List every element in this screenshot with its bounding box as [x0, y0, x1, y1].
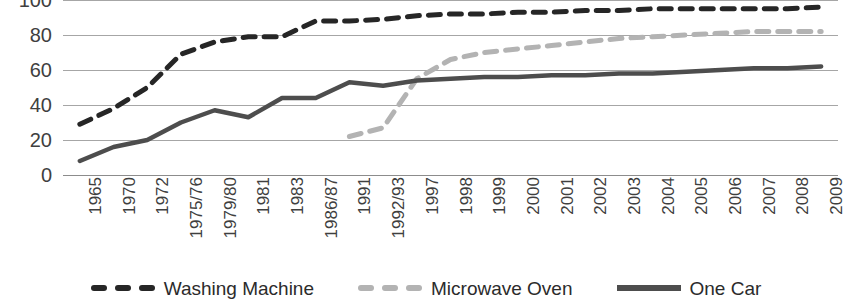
x-axis-tick-label: 1991	[356, 177, 373, 215]
x-axis-tick-text: 1981	[255, 177, 272, 215]
chart-legend: Washing MachineMicrowave OvenOne Car	[0, 268, 852, 308]
x-axis-tick-label: 2009	[828, 177, 845, 215]
x-axis-tick-label: 2003	[626, 177, 643, 215]
x-axis-tick-text: 1998	[458, 177, 475, 215]
dashed-gray-swatch	[358, 285, 422, 291]
x-axis-tick-text: 1979/80	[222, 177, 239, 238]
x-axis: 1965197019721975/761979/80198119831986/8…	[63, 177, 838, 268]
x-axis-tick-label: 1992/93	[390, 177, 407, 238]
x-axis-tick-text: 1975/76	[188, 177, 205, 238]
legend-item[interactable]: One Car	[617, 279, 762, 298]
x-axis-tick-text: 2004	[660, 177, 677, 215]
x-axis-tick-label: 2008	[794, 177, 811, 215]
x-axis-tick-label: 2005	[693, 177, 710, 215]
series-layer	[63, 0, 838, 175]
x-axis-tick-label: 1981	[255, 177, 272, 215]
y-axis-tick-label: 20	[30, 130, 52, 150]
y-axis-tick-label: 0	[41, 165, 52, 185]
x-axis-tick-label: 1979/80	[222, 177, 239, 238]
plot-area	[63, 0, 838, 175]
x-axis-tick-label: 1986/87	[323, 177, 340, 238]
x-axis-tick-label: 1999	[491, 177, 508, 215]
x-axis-tick-text: 1991	[356, 177, 373, 215]
x-axis-tick-label: 1972	[154, 177, 171, 215]
series-line	[349, 32, 821, 137]
y-axis-tick-label: 80	[30, 25, 52, 45]
x-axis-tick-label: 1983	[289, 177, 306, 215]
x-axis-tick-text: 2008	[794, 177, 811, 215]
x-axis-line	[63, 175, 838, 176]
plot-wrapper: 100806040200 1965197019721975/761979/801…	[0, 0, 852, 268]
legend-item[interactable]: Washing Machine	[91, 279, 314, 298]
dashed-dark-swatch	[91, 285, 155, 291]
x-axis-tick-text: 2002	[592, 177, 609, 215]
x-axis-tick-label: 2004	[660, 177, 677, 215]
x-axis-tick-text: 1999	[491, 177, 508, 215]
legend-item[interactable]: Microwave Oven	[358, 279, 573, 298]
y-axis-tick-label: 100	[19, 0, 52, 10]
y-axis-tick-label: 60	[30, 60, 52, 80]
x-axis-tick-text: 2005	[693, 177, 710, 215]
x-axis-tick-text: 2003	[626, 177, 643, 215]
line-chart: 100806040200 1965197019721975/761979/801…	[0, 0, 852, 308]
x-axis-tick-label: 2001	[559, 177, 576, 215]
legend-item-label: One Car	[690, 279, 762, 298]
x-axis-tick-text: 2007	[761, 177, 778, 215]
series-line	[80, 67, 821, 162]
x-axis-tick-text: 2000	[525, 177, 542, 215]
x-axis-tick-text: 2001	[559, 177, 576, 215]
x-axis-tick-label: 2006	[727, 177, 744, 215]
x-axis-tick-text: 1970	[121, 177, 138, 215]
y-axis: 100806040200	[0, 0, 58, 268]
x-axis-tick-label: 2007	[761, 177, 778, 215]
x-axis-tick-label: 1970	[121, 177, 138, 215]
x-axis-tick-label: 2002	[592, 177, 609, 215]
x-axis-tick-text: 2006	[727, 177, 744, 215]
legend-item-label: Microwave Oven	[431, 279, 573, 298]
series-line	[80, 7, 821, 124]
x-axis-tick-label: 1997	[424, 177, 441, 215]
legend-item-label: Washing Machine	[164, 279, 314, 298]
x-axis-tick-label: 1998	[458, 177, 475, 215]
x-axis-tick-text: 1992/93	[390, 177, 407, 238]
x-axis-tick-label: 1975/76	[188, 177, 205, 238]
x-axis-tick-text: 1986/87	[323, 177, 340, 238]
x-axis-tick-label: 2000	[525, 177, 542, 215]
x-axis-tick-text: 1983	[289, 177, 306, 215]
x-axis-tick-text: 1997	[424, 177, 441, 215]
x-axis-tick-text: 1972	[154, 177, 171, 215]
solid-dark-swatch	[617, 285, 681, 291]
x-axis-tick-text: 1965	[87, 177, 104, 215]
x-axis-tick-label: 1965	[87, 177, 104, 215]
y-axis-tick-label: 40	[30, 95, 52, 115]
x-axis-tick-text: 2009	[828, 177, 845, 215]
